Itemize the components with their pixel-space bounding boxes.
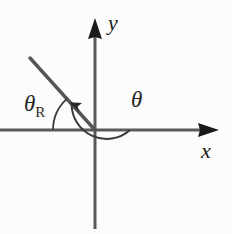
figure-canvas: y x θ θR (0, 0, 232, 234)
theta-r-label: θR (24, 92, 45, 120)
theta-r-arc (53, 99, 67, 130)
theta-arc (72, 104, 130, 139)
y-axis-label: y (108, 12, 118, 34)
y-axis-arrowhead (88, 18, 102, 39)
theta-r-symbol: θ (24, 91, 35, 116)
theta-r-subscript: R (35, 104, 45, 120)
x-axis-label: x (201, 140, 211, 162)
theta-label: θ (131, 88, 142, 111)
x-axis-arrowhead (198, 123, 219, 137)
